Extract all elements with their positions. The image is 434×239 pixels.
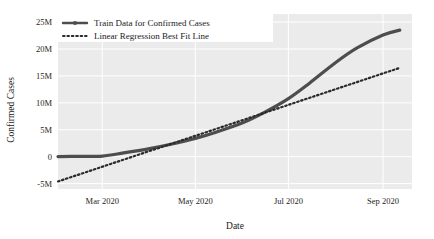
x-tick-label: May 2020 [178, 196, 213, 206]
legend-marker-icon [73, 21, 77, 25]
x-tick-label: Mar 2020 [86, 196, 119, 206]
y-tick-label: 10M [36, 98, 53, 108]
legend-label: Train Data for Confirmed Cases [94, 18, 210, 28]
y-tick-label: 0 [48, 152, 52, 162]
legend-label: Linear Regression Best Fit Line [94, 31, 209, 41]
y-tick-label: 20M [36, 44, 53, 54]
y-tick-label: 15M [36, 71, 53, 81]
x-tick-label: Jul 2020 [274, 196, 303, 206]
chart-legend: Train Data for Confirmed CasesLinear Reg… [58, 14, 273, 42]
confirmed-cases-line-chart: -5M05M10M15M20M25M Mar 2020May 2020Jul 2… [0, 0, 434, 239]
y-tick-label: -5M [37, 179, 52, 189]
y-tick-label: 5M [40, 125, 52, 135]
y-tick-label: 25M [36, 17, 53, 27]
x-tick-label: Sep 2020 [367, 196, 399, 206]
chart-figure: -5M05M10M15M20M25M Mar 2020May 2020Jul 2… [0, 0, 434, 239]
x-axis-title: Date [226, 221, 244, 231]
y-axis-title: Confirmed Cases [6, 77, 16, 143]
